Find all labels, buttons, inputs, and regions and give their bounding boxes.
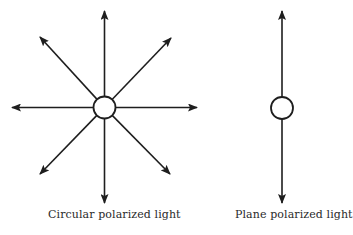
arrow-icon bbox=[112, 115, 170, 174]
circular-polarized-figure bbox=[12, 11, 197, 203]
light-source-circle-icon bbox=[271, 97, 293, 119]
arrow-icon bbox=[112, 38, 171, 100]
plane-polarized-caption: Plane polarized light bbox=[235, 208, 353, 221]
light-source-circle-icon bbox=[94, 97, 116, 119]
circular-polarized-caption: Circular polarized light bbox=[48, 208, 181, 221]
arrow-icon bbox=[40, 115, 97, 174]
arrow-icon bbox=[40, 37, 97, 99]
plane-polarized-figure bbox=[271, 11, 293, 203]
